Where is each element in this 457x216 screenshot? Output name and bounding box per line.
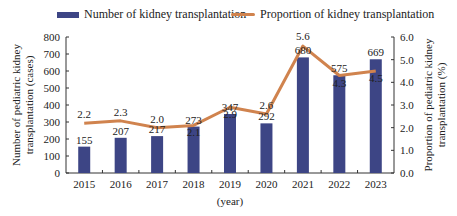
bar bbox=[78, 147, 90, 173]
line-value-label: 2.6 bbox=[260, 99, 274, 111]
x-tick-label: 2017 bbox=[146, 178, 169, 190]
y-right-tick-label: 2.0 bbox=[400, 122, 414, 134]
bar bbox=[260, 123, 272, 173]
x-tick-label: 2022 bbox=[328, 178, 350, 190]
y-right-tick-label: 5.0 bbox=[400, 54, 414, 66]
x-tick-label: 2021 bbox=[292, 178, 314, 190]
y-right-axis-title: Proportion of pediatric kidneytransplant… bbox=[422, 38, 448, 171]
x-tick-label: 2023 bbox=[365, 178, 388, 190]
y-left-tick-label: 600 bbox=[44, 65, 61, 77]
bar-value-label: 207 bbox=[112, 125, 129, 137]
y-left-tick-label: 500 bbox=[44, 82, 61, 94]
y-left-tick-label: 700 bbox=[44, 48, 61, 60]
x-tick-label: 2016 bbox=[110, 178, 133, 190]
line-value-label: 5.6 bbox=[296, 30, 310, 42]
y-left-axis-title: Number of pediatric kidneytransplantatio… bbox=[10, 44, 36, 166]
bar-value-label: 575 bbox=[331, 62, 348, 74]
bar bbox=[115, 138, 127, 173]
bar bbox=[151, 136, 163, 173]
bar bbox=[333, 75, 345, 173]
x-axis-title: (year) bbox=[217, 195, 244, 208]
y-left-tick-label: 300 bbox=[44, 116, 61, 128]
bar-value-label: 292 bbox=[258, 110, 275, 122]
y-right-tick-label: 0.0 bbox=[400, 167, 414, 179]
line-value-label: 2.3 bbox=[114, 106, 128, 118]
x-tick-label: 2018 bbox=[183, 178, 206, 190]
y-right-tick-label: 6.0 bbox=[400, 31, 414, 43]
y-right-tick-label: 3.0 bbox=[400, 99, 414, 111]
y-left-tick-label: 0 bbox=[55, 167, 61, 179]
y-left-tick-label: 400 bbox=[44, 99, 61, 111]
y-left-tick-label: 800 bbox=[44, 31, 61, 43]
y-left-tick-label: 200 bbox=[44, 133, 61, 145]
line-value-label: 4.5 bbox=[369, 72, 383, 84]
line-value-label: 4.3 bbox=[332, 77, 346, 89]
x-tick-label: 2020 bbox=[255, 178, 278, 190]
bar bbox=[224, 114, 236, 173]
y-right-tick-label: 4.0 bbox=[400, 76, 414, 88]
bar-value-label: 273 bbox=[185, 114, 202, 126]
bar-value-label: 155 bbox=[76, 134, 93, 146]
line-value-label: 2.0 bbox=[150, 113, 164, 125]
bar-value-label: 680 bbox=[295, 44, 312, 56]
y-right-tick-label: 1.0 bbox=[400, 144, 414, 156]
line-value-label: 2.9 bbox=[223, 108, 237, 120]
x-tick-label: 2015 bbox=[73, 178, 96, 190]
bar bbox=[297, 57, 309, 173]
x-tick-label: 2019 bbox=[219, 178, 242, 190]
bar-value-label: 669 bbox=[368, 46, 385, 58]
y-left-tick-label: 100 bbox=[44, 150, 61, 162]
line-value-label: 2.2 bbox=[77, 108, 91, 120]
combo-chart: 01002003004005006007008000.01.02.03.04.0… bbox=[0, 0, 457, 216]
line-value-label: 2.1 bbox=[187, 126, 201, 138]
bar-value-label: 217 bbox=[149, 123, 166, 135]
